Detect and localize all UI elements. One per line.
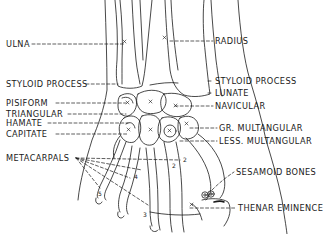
label-styloid-process-radius: STYLOID PROCESS: [215, 77, 297, 86]
label-less-multangular: LESS. MULTANGULAR: [219, 137, 312, 146]
label-capitate: CAPITATE: [6, 130, 47, 139]
label-hamate: HAMATE: [6, 119, 42, 128]
svg-text:2: 2: [183, 156, 187, 163]
label-navicular: NAVICULAR: [215, 102, 266, 111]
label-sesamoid-bones: SESAMOID BONES: [236, 168, 316, 177]
label-gr-multangular: GR. MULTANGULAR: [219, 124, 303, 133]
metacarpal-bones: [96, 134, 230, 232]
label-ulna: ULNA: [6, 40, 30, 49]
svg-text:2: 2: [172, 162, 176, 169]
radius-bone: [150, 0, 222, 97]
label-pisiform: PISIFORM: [6, 99, 48, 108]
sesamoid-bones: [202, 191, 224, 202]
svg-text:5: 5: [98, 190, 102, 197]
label-metacarpals: METACARPALS: [6, 154, 69, 163]
label-styloid-process-ulna: STYLOID PROCESS: [6, 80, 88, 89]
svg-text:4: 4: [134, 173, 138, 180]
wrist-anatomy-diagram: 5 4 3 2 2 ULNA STYLOID PROCESS PISIFORM …: [0, 0, 323, 234]
svg-text:3: 3: [143, 211, 147, 218]
label-lunate: LUNATE: [215, 89, 249, 98]
metacarpal-numbers: 5 4 3 2 2: [98, 156, 187, 218]
label-thenar-eminence: THENAR EMINENCE: [238, 204, 323, 213]
label-radius: RADIUS: [215, 37, 248, 46]
